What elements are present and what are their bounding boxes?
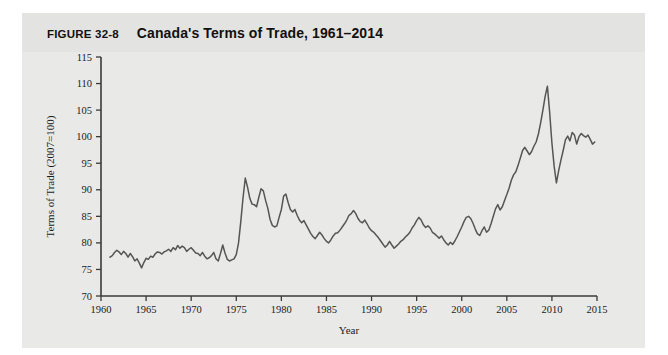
y-tick-label-80: 80: [82, 237, 93, 248]
x-tick-label-1970: 1970: [181, 304, 202, 315]
x-tick-label-1980: 1980: [271, 304, 292, 315]
x-tick-label-2010: 2010: [541, 304, 562, 315]
y-axis-title: Terms of Trade (2007=100): [44, 115, 57, 237]
x-tick-label-1985: 1985: [316, 304, 337, 315]
x-axis: 1960196519701975198019851990199520002005…: [91, 296, 608, 315]
y-axis: 707580859095100105110115: [76, 52, 101, 302]
y-tick-label-115: 115: [77, 52, 92, 63]
y-tick-label-100: 100: [76, 131, 92, 142]
chart-plot-area: 707580859095100105110115 196019651970197…: [22, 13, 645, 348]
y-tick-label-85: 85: [82, 211, 93, 222]
terms-of-trade-series-line: [110, 86, 595, 268]
x-tick-label-1995: 1995: [406, 304, 427, 315]
line-chart: 707580859095100105110115 196019651970197…: [22, 13, 645, 348]
y-tick-label-105: 105: [76, 105, 92, 116]
y-tick-label-75: 75: [82, 264, 93, 275]
y-tick-label-95: 95: [82, 158, 93, 169]
x-tick-label-1965: 1965: [136, 304, 157, 315]
x-axis-title: Year: [339, 324, 360, 336]
y-tick-label-90: 90: [82, 184, 93, 195]
x-tick-label-1975: 1975: [226, 304, 247, 315]
y-tick-label-70: 70: [82, 291, 93, 302]
x-tick-label-2000: 2000: [451, 304, 472, 315]
y-tick-label-110: 110: [77, 78, 92, 89]
x-tick-label-1990: 1990: [361, 304, 382, 315]
x-tick-label-2005: 2005: [496, 304, 517, 315]
x-tick-label-2015: 2015: [587, 304, 608, 315]
x-tick-label-1960: 1960: [91, 304, 112, 315]
figure-panel: FIGURE 32-8 Canada's Terms of Trade, 196…: [22, 13, 645, 348]
